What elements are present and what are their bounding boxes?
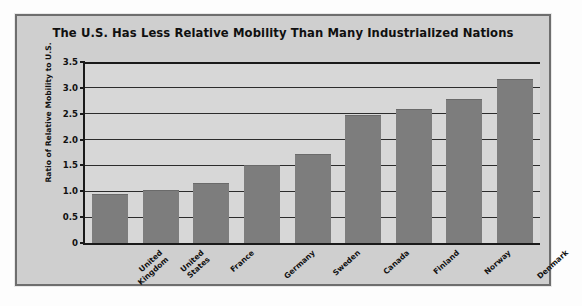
y-axis-tick-label: 2.0 bbox=[63, 135, 78, 145]
chart-card: The U.S. Has Less Relative Mobility Than… bbox=[15, 14, 551, 286]
y-axis-tick-label: 1.5 bbox=[63, 160, 78, 170]
x-axis-category-label: Denmark bbox=[535, 249, 569, 281]
bar bbox=[92, 194, 128, 243]
x-axis-category-label-line: Canada bbox=[382, 249, 411, 277]
plot-area: 00.51.01.52.02.53.03.5 UnitedKingdomUnit… bbox=[83, 62, 540, 245]
x-axis-category-label: Canada bbox=[382, 249, 411, 277]
bars-layer: UnitedKingdomUnitedStatesFranceGermanySw… bbox=[85, 62, 540, 243]
x-axis-category-label-line: Sweden bbox=[332, 249, 363, 278]
x-axis-category-label-line: Finland bbox=[433, 249, 462, 277]
bar bbox=[446, 99, 482, 243]
x-axis-category-label-line: Norway bbox=[483, 249, 513, 277]
chart-screenshot: The U.S. Has Less Relative Mobility Than… bbox=[0, 0, 582, 306]
y-axis-tick-label: 2.5 bbox=[63, 109, 78, 119]
y-axis-tick-label: 1.0 bbox=[63, 186, 78, 196]
x-axis-category-label: Finland bbox=[433, 249, 462, 277]
bar bbox=[244, 165, 280, 243]
bar bbox=[497, 79, 533, 243]
chart-title: The U.S. Has Less Relative Mobility Than… bbox=[17, 26, 549, 40]
y-axis-title: Ratio of Relative Mobility to U.S. bbox=[44, 38, 53, 188]
x-axis-category-label: Germany bbox=[283, 249, 317, 281]
bar bbox=[193, 183, 229, 244]
x-axis-category-label: UnitedKingdom bbox=[131, 249, 171, 287]
x-axis-category-label-line: France bbox=[230, 249, 257, 274]
bar bbox=[345, 115, 381, 243]
bar bbox=[396, 109, 432, 243]
x-axis-category-label: Sweden bbox=[332, 249, 363, 278]
y-axis-tick-label: 3.0 bbox=[63, 83, 78, 93]
bar bbox=[295, 154, 331, 243]
y-axis-tick-label: 0 bbox=[72, 238, 78, 248]
y-axis-tick-label: 0.5 bbox=[63, 212, 78, 222]
y-axis-tick-label: 3.5 bbox=[63, 57, 78, 67]
x-axis-category-label-line: Germany bbox=[283, 249, 317, 281]
x-axis-category-label: France bbox=[230, 249, 257, 274]
x-axis-category-label: Norway bbox=[483, 249, 513, 277]
x-axis-category-label-line: Denmark bbox=[535, 249, 569, 281]
x-axis-category-label: UnitedStates bbox=[179, 249, 211, 281]
bar bbox=[143, 190, 179, 243]
